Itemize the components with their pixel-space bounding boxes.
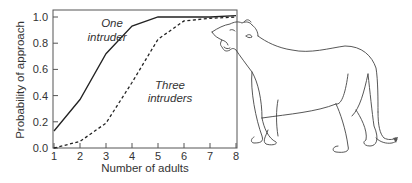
x-tick-label: 2 bbox=[77, 150, 83, 162]
x-tick-label: 6 bbox=[181, 150, 187, 162]
series-line-one-intruder bbox=[54, 16, 236, 131]
y-tick-label: 0.6 bbox=[33, 63, 48, 75]
annotation-three-intruders-line2: intruders bbox=[148, 92, 193, 104]
x-axis-ticks: 12345678 bbox=[51, 143, 239, 162]
plot-frame bbox=[53, 10, 237, 148]
y-axis-title: Probability of approach bbox=[14, 21, 26, 139]
y-tick-label: 1.0 bbox=[33, 11, 48, 23]
y-tick-label: 0.0 bbox=[33, 142, 48, 154]
y-tick-label: 0.2 bbox=[33, 116, 48, 128]
plot-area: 0.00.20.40.60.81.0 12345678 One intruder… bbox=[33, 10, 239, 162]
x-axis-title: Number of adults bbox=[101, 162, 189, 174]
x-tick-label: 7 bbox=[207, 150, 213, 162]
y-axis-ticks: 0.00.20.40.60.81.0 bbox=[33, 11, 58, 154]
x-tick-label: 1 bbox=[51, 150, 57, 162]
series-line-three-intruders bbox=[54, 17, 236, 148]
chart-figure: 0.00.20.40.60.81.0 12345678 One intruder… bbox=[0, 0, 412, 183]
lioness-illustration-icon bbox=[212, 20, 398, 153]
annotation-one-intruder-line1: One bbox=[101, 17, 123, 29]
annotation-three-intruders-line1: Three bbox=[155, 79, 185, 91]
x-tick-label: 4 bbox=[129, 150, 135, 162]
x-tick-label: 3 bbox=[103, 150, 109, 162]
x-tick-label: 8 bbox=[233, 150, 239, 162]
annotation-one-intruder-line2: intruder bbox=[88, 31, 128, 43]
y-tick-label: 0.4 bbox=[33, 90, 48, 102]
x-tick-label: 5 bbox=[155, 150, 161, 162]
y-tick-label: 0.8 bbox=[33, 37, 48, 49]
